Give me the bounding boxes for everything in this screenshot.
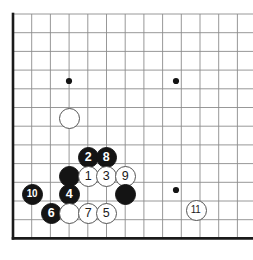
hoshi-upper-right bbox=[173, 78, 179, 84]
hoshi-lower-right bbox=[173, 187, 179, 193]
hoshi-points bbox=[66, 78, 179, 193]
board-grid bbox=[0, 0, 253, 260]
grid-lines bbox=[13, 14, 253, 238]
hoshi-upper-left bbox=[66, 78, 72, 84]
go-board-diagram: 2813910467511 bbox=[0, 0, 253, 260]
